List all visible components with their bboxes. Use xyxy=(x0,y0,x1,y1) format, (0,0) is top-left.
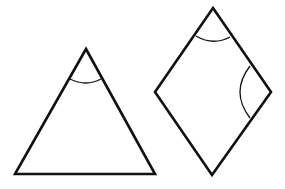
geometry-diagram xyxy=(0,0,285,189)
background xyxy=(0,0,285,189)
